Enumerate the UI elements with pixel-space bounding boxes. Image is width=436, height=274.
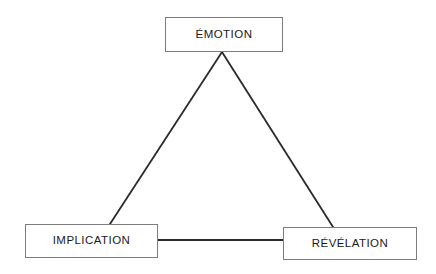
edge-emotion-revelation: [222, 52, 333, 227]
node-emotion[interactable]: ÉMOTION: [165, 17, 283, 52]
node-emotion-label: ÉMOTION: [196, 29, 253, 41]
node-revelation-label: RÉVÉLATION: [312, 238, 389, 250]
node-revelation[interactable]: RÉVÉLATION: [283, 227, 417, 260]
edge-emotion-implication: [110, 52, 222, 224]
node-implication-label: IMPLICATION: [53, 235, 131, 247]
node-implication[interactable]: IMPLICATION: [25, 224, 158, 258]
diagram-canvas: ÉMOTION IMPLICATION RÉVÉLATION: [0, 0, 436, 274]
